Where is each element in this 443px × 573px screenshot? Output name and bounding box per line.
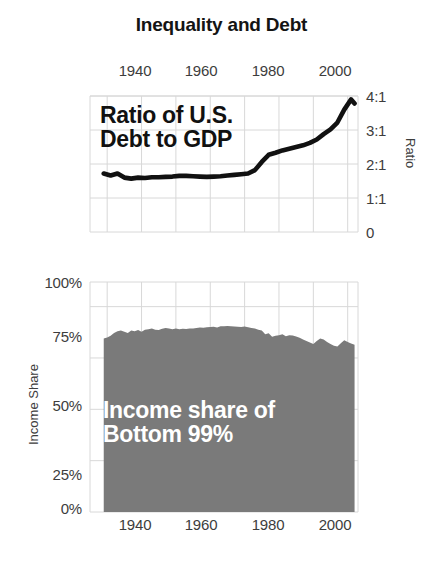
top-xtick-2000: 2000 [310, 62, 360, 79]
bottom-ytick-75: 75% [10, 328, 82, 345]
top-ytick-2to1: 2:1 [366, 156, 406, 173]
debt-to-gdp-panel: 1940 1960 1980 2000 4:1 3:1 2:1 1:1 0 Ra… [0, 0, 443, 250]
income-share-panel: 100% 75% 50% 25% 0% Income Share Income … [0, 250, 443, 573]
bottom-xtick-1980: 1980 [243, 516, 293, 533]
top-ytick-3to1: 3:1 [366, 122, 406, 139]
bottom-ytick-25: 25% [10, 466, 82, 483]
top-ytick-4to1: 4:1 [366, 88, 406, 105]
bottom-yaxis-title: Income Share [26, 364, 41, 445]
top-yaxis-title: Ratio [403, 138, 418, 168]
top-ytick-0: 0 [366, 224, 406, 241]
bottom-ytick-0: 0% [10, 500, 82, 517]
bottom-xtick-1940: 1940 [110, 516, 160, 533]
bottom-xtick-2000: 2000 [310, 516, 360, 533]
bottom-xtick-1960: 1960 [176, 516, 226, 533]
top-xtick-1960: 1960 [176, 62, 226, 79]
top-xtick-1980: 1980 [243, 62, 293, 79]
figure-root: Inequality and Debt 1940 1960 1980 2000 … [0, 0, 443, 573]
bottom-ytick-50: 50% [10, 397, 82, 414]
debt-to-gdp-annotation: Ratio of U.S. Debt to GDP [100, 103, 233, 152]
bottom-ytick-100: 100% [10, 274, 82, 291]
income-share-annotation: Income share of Bottom 99% [103, 398, 275, 447]
top-xtick-1940: 1940 [110, 62, 160, 79]
top-ytick-1to1: 1:1 [366, 190, 406, 207]
